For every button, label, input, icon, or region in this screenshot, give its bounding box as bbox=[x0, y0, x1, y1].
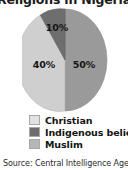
legend-swatch-icon-indigenous-beliefs bbox=[29, 127, 40, 137]
legend-label-muslim: Muslim bbox=[45, 139, 83, 150]
chart-title-clip: Religions in Nigeria bbox=[0, 0, 128, 7]
pie-label-muslim: 50% bbox=[73, 59, 96, 70]
legend-label-christian: Christian bbox=[45, 115, 92, 126]
legend-label-indigenous-beliefs: Indigenous beliefs bbox=[45, 127, 128, 138]
pie-label-christian: 40% bbox=[33, 59, 56, 70]
pie-chart: 10% 40% 50% bbox=[22, 8, 108, 112]
legend-item-muslim[interactable]: Muslim bbox=[29, 138, 128, 150]
pie-chart-svg: 10% 40% 50% bbox=[22, 8, 108, 112]
pie-chart-figure: Religions in Nigeria 10% 40% 50% Christi… bbox=[0, 0, 128, 170]
legend-swatch-icon-muslim bbox=[29, 139, 40, 149]
legend-item-christian[interactable]: Christian bbox=[29, 114, 128, 126]
chart-legend: Christian Indigenous beliefs Muslim bbox=[29, 114, 128, 150]
page-title: Religions in Nigeria bbox=[0, 0, 128, 7]
chart-source-note: Source: Central Intelligence Agency, bbox=[3, 159, 128, 169]
legend-swatch-icon-christian bbox=[29, 115, 40, 125]
pie-label-indigenous-beliefs: 10% bbox=[46, 22, 69, 33]
legend-item-indigenous-beliefs[interactable]: Indigenous beliefs bbox=[29, 126, 128, 138]
